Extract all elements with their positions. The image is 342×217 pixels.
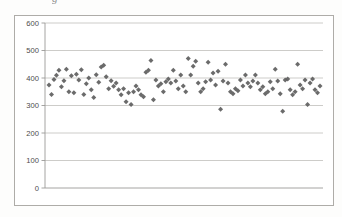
y-axis-tick-label-100: 100 bbox=[26, 156, 39, 165]
scatter-chart: 0100200300400500600 bbox=[0, 0, 342, 217]
y-axis-tick-label-500: 500 bbox=[26, 46, 39, 55]
y-axis-tick-label-300: 300 bbox=[26, 101, 39, 110]
y-axis-tick-label-400: 400 bbox=[26, 74, 39, 83]
scanned-page: g 0100200300400500600 bbox=[0, 0, 342, 217]
y-axis-tick-label-0: 0 bbox=[35, 184, 39, 193]
y-axis-tick-label-200: 200 bbox=[26, 129, 39, 138]
chart-frame bbox=[15, 16, 334, 206]
y-axis-tick-label-600: 600 bbox=[26, 19, 39, 28]
